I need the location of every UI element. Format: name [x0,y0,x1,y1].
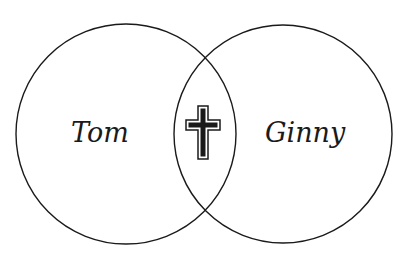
label-ginny: Ginny [265,117,346,148]
venn-diagram: Tom Ginny [0,0,408,264]
cross-icon [186,106,220,159]
label-tom: Tom [71,117,129,148]
